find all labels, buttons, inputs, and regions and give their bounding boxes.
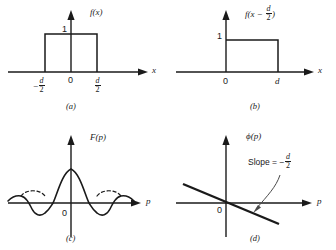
panel-a-caption: (a) — [66, 101, 76, 111]
dashed-sidelobe-left — [21, 191, 45, 196]
panel-a: f(x) x 1 0 −d2 d2 (a) — [0, 0, 168, 125]
annotation-arrowhead — [253, 205, 261, 213]
pulse-curve — [226, 40, 278, 72]
phase-line — [183, 184, 279, 224]
dashed-sidelobe-right — [97, 191, 121, 196]
panel-a-y-value-label: 1 — [62, 25, 67, 34]
panel-c-plot — [0, 125, 168, 250]
y-axis-arrowhead — [67, 135, 74, 145]
panel-d-plot — [168, 125, 336, 250]
panel-a-x-axis-label: x — [152, 66, 156, 75]
y-axis-arrowhead — [222, 135, 229, 145]
panel-d-caption: (d) — [250, 233, 260, 243]
frac-den: 2 — [285, 161, 291, 170]
slope-annotation-text: Slope = − — [248, 157, 284, 167]
panel-b-tick-right: d — [275, 77, 280, 86]
panel-d-origin-label: 0 — [217, 206, 222, 215]
panel-c-origin-label: 0 — [62, 209, 67, 218]
frac-den: 2 — [39, 85, 45, 94]
curve-label-suffix: ) — [272, 9, 275, 19]
panel-d-curve-label: ϕ(p) — [246, 132, 261, 141]
panel-d-x-axis-label: p — [317, 197, 322, 206]
frac-num: d — [39, 77, 45, 85]
figure-rect-pulse-fourier: f(x) x 1 0 −d2 d2 (a) f(x − d2) x 1 0 d … — [0, 0, 336, 250]
panel-a-origin-label: 0 — [68, 76, 73, 85]
panel-c: F(p) p 0 (c) — [0, 125, 168, 250]
x-axis-arrowhead — [302, 199, 312, 206]
panel-b-caption: (b) — [250, 101, 260, 111]
frac-num: d — [285, 153, 291, 161]
panel-a-plot — [0, 0, 168, 125]
panel-a-tick-right: d2 — [94, 77, 101, 94]
panel-b-curve-label: f(x − d2) — [245, 5, 275, 22]
x-axis-arrowhead — [138, 68, 148, 75]
frac-num: d — [266, 5, 272, 13]
frac-num: d — [95, 77, 101, 85]
frac-den: 2 — [266, 13, 272, 22]
x-axis-arrowhead — [304, 68, 314, 75]
panel-b-y-value-label: 1 — [217, 32, 222, 41]
curve-label-prefix: f(x − — [245, 9, 265, 19]
y-axis-arrowhead — [67, 10, 74, 20]
frac-den: 2 — [95, 85, 101, 94]
panel-a-curve-label: f(x) — [90, 8, 103, 17]
panel-c-caption: (c) — [66, 233, 75, 243]
panel-b-origin-label: 0 — [223, 77, 228, 86]
panel-a-tick-left: −d2 — [33, 77, 45, 94]
minus-sign: − — [33, 81, 38, 91]
annotation-arrow-curve — [256, 175, 280, 209]
panel-d-slope-annotation: Slope = −d2 — [248, 153, 291, 170]
panel-d: ϕ(p) p 0 Slope = −d2 (d) — [168, 125, 336, 250]
panel-b: f(x − d2) x 1 0 d (b) — [168, 0, 336, 125]
panel-c-x-axis-label: p — [146, 197, 151, 206]
y-axis-arrowhead — [222, 10, 229, 20]
panel-c-curve-label: F(p) — [90, 133, 106, 142]
panel-b-x-axis-label: x — [318, 66, 322, 75]
